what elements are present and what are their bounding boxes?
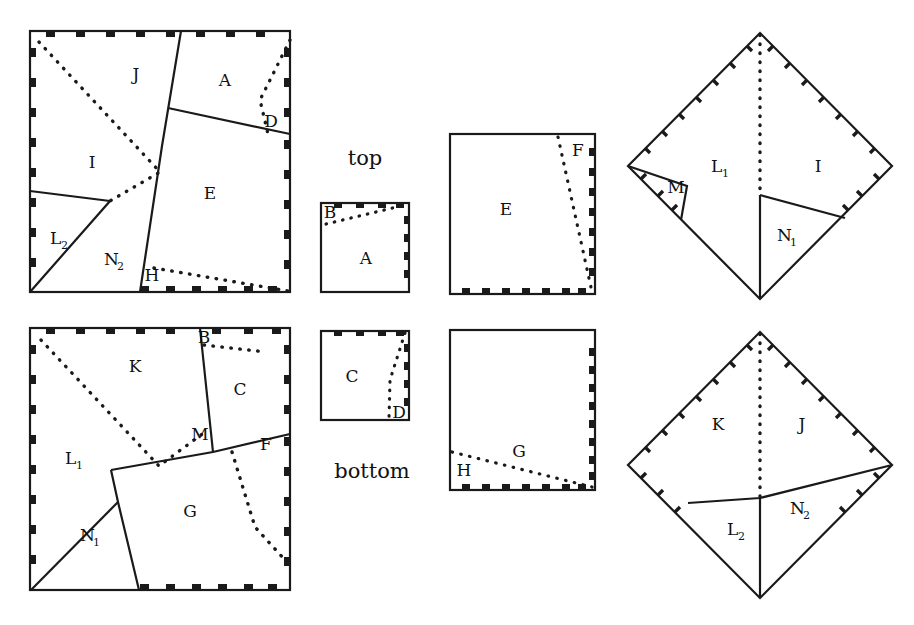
panel-diamond-bottom: K J L 2 N 2 (628, 332, 892, 598)
geometric-dissection-figure: J A D I E L 2 N 2 H (0, 0, 914, 625)
region-label-I: I (89, 152, 96, 172)
region-label-G: G (183, 501, 197, 521)
panel-mid-square-top: E F (450, 134, 595, 294)
region-label-M: M (667, 177, 684, 197)
svg-text:1: 1 (93, 536, 100, 549)
svg-text:1: 1 (76, 459, 83, 472)
panel-small-square-top: top B A (321, 146, 409, 292)
region-label-B: B (324, 202, 337, 222)
region-label-F: F (572, 140, 584, 160)
panel-diamond-top: L 1 I M N 1 (628, 33, 892, 299)
region-label-E: E (204, 183, 216, 203)
region-label-F: F (260, 434, 272, 454)
region-label-B: B (198, 327, 211, 347)
region-label-A: A (218, 70, 232, 90)
caption-bottom: bottom (334, 459, 410, 483)
svg-text:2: 2 (61, 239, 68, 252)
panel-mid-square-bottom: G H (450, 330, 595, 490)
svg-text:L: L (65, 448, 76, 468)
panel-small-square-bottom: C D bottom (321, 331, 410, 483)
svg-text:L: L (711, 156, 722, 176)
region-label-M: M (191, 424, 208, 444)
svg-text:1: 1 (722, 167, 729, 180)
square-outline (450, 330, 595, 490)
svg-text:2: 2 (803, 509, 810, 522)
svg-text:2: 2 (117, 260, 124, 273)
region-label-H: H (457, 460, 472, 480)
region-label-H: H (145, 265, 160, 285)
region-label-K: K (712, 414, 725, 434)
svg-text:2: 2 (738, 530, 745, 543)
svg-text:1: 1 (790, 236, 797, 249)
region-label-I: I (815, 156, 822, 176)
region-label-C: C (345, 366, 358, 386)
region-label-E: E (500, 199, 512, 219)
caption-top: top (348, 146, 383, 170)
svg-text:L: L (50, 228, 61, 248)
region-label-D: D (264, 111, 278, 131)
region-label-D: D (392, 402, 406, 422)
panel-big-square-bottom: K B C M F L 1 G N 1 (30, 327, 290, 590)
region-label-A: A (359, 248, 373, 268)
region-label-C: C (233, 379, 246, 399)
figure-canvas: J A D I E L 2 N 2 H (0, 0, 914, 625)
svg-text:L: L (727, 519, 738, 539)
panel-big-square-top: J A D I E L 2 N 2 H (30, 31, 290, 292)
region-label-J: J (131, 64, 140, 84)
region-label-K: K (129, 356, 142, 376)
region-label-J: J (797, 414, 806, 434)
region-label-G: G (512, 441, 526, 461)
